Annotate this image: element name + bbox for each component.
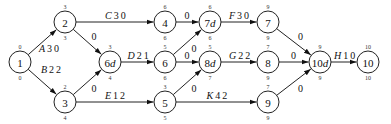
edge-2-6d: 0	[73, 29, 101, 54]
edge-label: 0	[92, 83, 97, 94]
node-top-value: 3	[164, 84, 167, 90]
node-label: 10	[363, 57, 375, 69]
edge-8d-8: G2 2	[221, 50, 257, 62]
node-top-value: 7	[267, 44, 270, 50]
node-bottom-value: 6	[164, 75, 167, 81]
edge-label: 0	[92, 31, 97, 42]
arrow-icon	[73, 29, 101, 54]
node-label: 1	[17, 57, 23, 69]
edge-label: C3 0	[105, 10, 126, 21]
node-top-value: 9	[267, 4, 270, 10]
edge-label: B2 2	[41, 64, 61, 75]
node-7d: 7d66	[199, 4, 221, 41]
node-9: 979	[257, 84, 279, 121]
node-top-value: 2	[64, 84, 67, 90]
node-8d: 8d57	[199, 44, 221, 81]
edge-2-4: C3 0	[76, 10, 154, 22]
edge-label: 0	[298, 31, 303, 42]
node-label: 3	[62, 97, 68, 109]
edge-label: F3 0	[228, 10, 249, 21]
node-8: 879	[257, 44, 279, 81]
arrow-icon	[173, 70, 201, 95]
node-label: 5	[162, 97, 168, 109]
edges-layer: A3 0B2 2C3 000E1 2D2 10000K4 2F3 0G2 200…	[28, 10, 356, 102]
node-bottom-value: 3	[64, 35, 67, 41]
node-top-value: 5	[209, 44, 212, 50]
node-bottom-value: 7	[209, 75, 212, 81]
node-top-value: 5	[164, 44, 167, 50]
node-bottom-value: 9	[267, 75, 270, 81]
node-bottom-value: 6	[209, 35, 212, 41]
edge-label: 0	[291, 50, 296, 61]
arrow-icon	[277, 69, 311, 95]
node-top-value: 3	[109, 44, 112, 50]
node-10d: 10d99	[309, 44, 331, 81]
edge-1-3: B2 2	[28, 64, 61, 94]
node-top-value: 6	[164, 4, 167, 10]
node-5: 535	[154, 84, 176, 121]
edge-label: G2 2	[229, 50, 250, 61]
edge-7d-7: F3 0	[221, 10, 257, 22]
node-4: 466	[154, 4, 176, 41]
node-label: 8d	[205, 57, 217, 69]
node-label: 9	[265, 97, 271, 109]
node-bottom-value: 9	[319, 75, 322, 81]
edge-6d-6: D2 1	[121, 50, 154, 62]
edge-1-2: A3 0	[28, 30, 59, 55]
edge-label: D2 1	[127, 50, 149, 61]
network-diagram: A3 0B2 2C3 000E1 2D2 10000K4 2F3 0G2 200…	[0, 0, 391, 124]
edge-8-10d: 0	[279, 50, 309, 62]
edge-label: 0	[192, 83, 197, 94]
node-label: 7	[265, 17, 271, 29]
edge-label: 0	[192, 43, 197, 54]
edge-4-7d: 0	[176, 10, 199, 22]
edge-label: K4 2	[206, 90, 228, 101]
node-top-value: 9	[319, 44, 322, 50]
node-7: 799	[257, 4, 279, 41]
edge-label: E1 2	[104, 90, 125, 101]
node-top-value: 3	[64, 4, 67, 10]
node-1: 100	[9, 44, 31, 81]
edge-3-6d: 0	[73, 70, 101, 95]
node-bottom-value: 9	[267, 35, 270, 41]
node-10: 101010	[357, 44, 379, 81]
edge-label: 0	[298, 83, 303, 94]
node-top-value: 10	[365, 44, 371, 50]
edge-9-10d: 0	[277, 69, 311, 95]
node-label: 7d	[205, 17, 217, 29]
edge-label: A3 0	[38, 43, 59, 54]
node-bottom-value: 0	[19, 75, 22, 81]
node-bottom-value: 6	[164, 35, 167, 41]
edge-5-9: K4 2	[176, 90, 257, 102]
node-top-value: 7	[267, 84, 270, 90]
node-bottom-value: 5	[164, 115, 167, 121]
edge-3-5: E1 2	[76, 90, 154, 102]
node-label: 6d	[105, 57, 117, 69]
node-6d: 6d34	[99, 44, 121, 81]
node-label: 4	[162, 17, 168, 29]
node-bottom-value: 4	[109, 75, 112, 81]
node-bottom-value: 9	[267, 115, 270, 121]
node-top-value: 6	[209, 4, 212, 10]
arrow-icon	[73, 70, 101, 95]
edge-label: H1 0	[333, 50, 355, 61]
node-3: 324	[54, 84, 76, 121]
node-label: 10d	[312, 57, 329, 69]
node-label: 6	[162, 57, 168, 69]
node-bottom-value: 4	[64, 115, 67, 121]
edge-5-8d: 0	[173, 70, 201, 95]
node-label: 2	[62, 17, 68, 29]
node-label: 8	[265, 57, 271, 69]
node-bottom-value: 10	[365, 75, 371, 81]
edge-10d-10: H1 0	[331, 50, 357, 62]
edge-label: 0	[185, 10, 190, 21]
node-6: 656	[154, 44, 176, 81]
node-top-value: 0	[19, 44, 22, 50]
edge-label: 0	[185, 50, 190, 61]
node-2: 233	[54, 4, 76, 41]
